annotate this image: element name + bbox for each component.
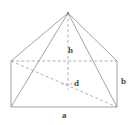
pyramid-lateral-edges <box>11 13 117 107</box>
pyramid-edge-apex-to-back-left <box>11 13 68 61</box>
pyramid-edge-apex-to-back-right <box>68 13 117 61</box>
label-b: b <box>121 77 126 86</box>
geometry-figure: h d a b <box>0 0 131 125</box>
construction-lines <box>11 13 117 107</box>
pyramid-edge-apex-to-front-right <box>68 13 117 107</box>
label-d: d <box>74 79 79 88</box>
pyramid-edge-apex-to-front-left <box>11 13 68 107</box>
label-a: a <box>62 111 67 120</box>
apex-vertex-dot <box>67 12 69 14</box>
label-h: h <box>68 46 73 55</box>
figure-canvas <box>0 0 131 125</box>
